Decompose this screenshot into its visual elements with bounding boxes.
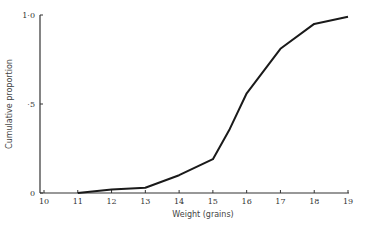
x-tick-label: 19 (343, 197, 353, 206)
y-tick-label: 1·0 (22, 11, 35, 20)
x-tick-label: 13 (140, 197, 150, 206)
data-line (78, 17, 348, 193)
x-tick-label: 10 (39, 197, 49, 206)
axes (40, 15, 349, 193)
x-tick-label: 16 (242, 197, 252, 206)
y-tick-label: ·5 (27, 100, 35, 109)
x-tick-label: 14 (174, 197, 184, 206)
x-tick-label: 12 (106, 197, 116, 206)
y-tick-label: 0 (30, 189, 35, 198)
x-tick-label: 17 (275, 197, 285, 206)
y-axis-label: Cumulative proportion (5, 59, 14, 149)
cumulative-proportion-chart: 101112131415161718190·51·0 Cumulative pr… (0, 0, 367, 229)
ticks: 101112131415161718190·51·0 (22, 11, 353, 206)
x-tick-label: 18 (309, 197, 319, 206)
x-axis-label: Weight (grains) (172, 210, 233, 219)
x-tick-label: 11 (73, 197, 83, 206)
x-tick-label: 15 (208, 197, 218, 206)
